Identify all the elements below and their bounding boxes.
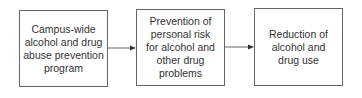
node-prevention-personal-risk: Prevention of personal risk for alcohol … <box>136 9 225 86</box>
node-reduction-drug-use: Reduction of alcohol and drug use <box>254 8 343 86</box>
node-label: Prevention of personal risk for alcohol … <box>146 15 215 80</box>
node-label: Campus-wide alcohol and drug abuse preve… <box>23 23 104 75</box>
node-campus-prevention-program: Campus-wide alcohol and drug abuse preve… <box>19 10 108 87</box>
node-label: Reduction of alcohol and drug use <box>269 28 328 67</box>
arrow-n2-to-n3 <box>225 45 254 50</box>
arrow-n1-to-n2 <box>108 46 136 51</box>
